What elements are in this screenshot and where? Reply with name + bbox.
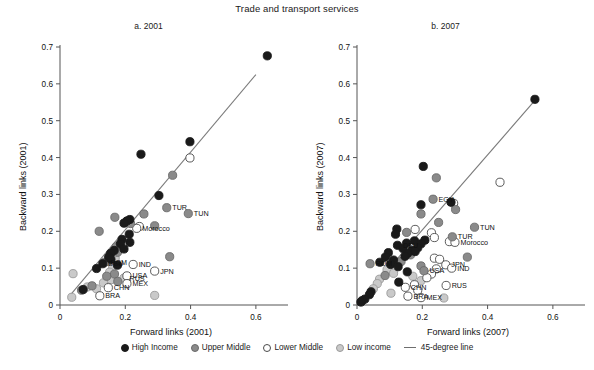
panel-a-y-axis-label: Backward links (2001) <box>18 142 28 231</box>
data-point <box>166 253 174 261</box>
data-point <box>366 260 374 268</box>
data-point <box>186 154 194 162</box>
data-point <box>151 291 159 299</box>
panel-b-xtick-3: 0.6 <box>547 313 559 322</box>
data-point-label: JPN <box>160 267 174 276</box>
data-point <box>531 95 539 103</box>
legend-item-upper-middle[interactable]: Upper Middle <box>191 343 251 352</box>
data-point-label: MEX <box>426 293 442 302</box>
panel-b-ytick-7: 0.7 <box>339 43 351 52</box>
data-point <box>163 204 171 212</box>
legend: High IncomeUpper MiddleLower MiddleLow i… <box>0 343 594 352</box>
legend-item-low-income[interactable]: Low income <box>336 343 391 352</box>
data-point <box>419 162 427 170</box>
panel-a-xtick-1: 0.2 <box>120 313 132 322</box>
data-point <box>448 233 456 241</box>
data-point-label: TUR <box>458 232 473 241</box>
legend-marker-filled-circle <box>336 344 344 352</box>
panel-b-ytick-0: 0 <box>345 301 350 310</box>
legend-label: 45-degree line <box>421 343 473 352</box>
data-point <box>111 213 119 221</box>
data-point <box>387 289 395 297</box>
legend-label: Upper Middle <box>202 343 251 352</box>
data-point <box>394 263 402 271</box>
legend-marker-filled-circle <box>191 344 199 352</box>
data-point <box>411 225 419 233</box>
data-point <box>186 138 194 146</box>
panel-b-xtick-0: 0 <box>355 313 360 322</box>
panel-b-ytick-2: 0.2 <box>339 227 351 236</box>
data-point <box>432 174 440 182</box>
data-point <box>140 210 148 218</box>
data-point <box>151 267 159 275</box>
data-point <box>496 178 504 186</box>
panel-a-ytick-2: 0.2 <box>42 227 54 236</box>
panel-a-ytick-4: 0.4 <box>42 154 54 163</box>
data-point <box>79 285 87 293</box>
panel-b-2007: b. 2007 00.10.20.30.40.50.60.700.20.40.6… <box>297 0 594 340</box>
data-point <box>92 264 100 272</box>
data-point <box>470 223 478 231</box>
panel-a-ytick-0: 0 <box>48 301 53 310</box>
panel-a-xtick-3: 0.6 <box>250 313 262 322</box>
panel-a-x-axis-label: Forward links (2001) <box>60 327 282 337</box>
data-point <box>442 281 450 289</box>
data-point <box>125 230 133 238</box>
data-point-label: ROM <box>376 259 393 268</box>
data-point <box>357 298 365 306</box>
data-point <box>126 238 134 246</box>
data-point <box>430 233 438 241</box>
legend-item-45-degree-line[interactable]: 45-degree line <box>404 343 473 352</box>
data-point <box>435 218 443 226</box>
panel-a-plot: 00.10.20.30.40.50.60.700.20.40.6RUSMoroc… <box>0 0 297 340</box>
legend-item-lower-middle[interactable]: Lower Middle <box>263 343 323 352</box>
data-point-label: TUR <box>172 203 187 212</box>
data-point <box>169 171 177 179</box>
data-point <box>395 278 403 286</box>
data-point <box>381 271 389 279</box>
data-point <box>129 260 137 268</box>
data-point-label: DEU <box>108 259 123 268</box>
data-point <box>404 292 412 300</box>
data-point <box>417 201 425 209</box>
legend-label: Lower Middle <box>274 343 323 352</box>
data-point <box>68 293 76 301</box>
data-point <box>451 205 459 213</box>
legend-marker-open-circle <box>263 344 271 352</box>
panel-b-ytick-3: 0.3 <box>339 190 351 199</box>
legend-line-swatch <box>404 347 416 348</box>
panel-b-x-axis-label: Forward links (2007) <box>357 327 579 337</box>
panel-b-y-axis-label: Backward links (2007) <box>315 142 325 231</box>
panel-b-ytick-6: 0.6 <box>339 80 351 89</box>
data-point <box>403 268 411 276</box>
panel-b-ytick-4: 0.4 <box>339 154 351 163</box>
data-point <box>420 267 428 275</box>
panel-a-ytick-1: 0.1 <box>42 264 54 273</box>
data-point <box>120 219 128 227</box>
data-point <box>96 292 104 300</box>
panel-a-xtick-2: 0.4 <box>185 313 197 322</box>
data-point <box>69 270 77 278</box>
panel-a-ytick-5: 0.5 <box>42 117 54 126</box>
panel-b-plot: 00.10.20.30.40.50.60.700.20.40.6MoroccoJ… <box>297 0 594 340</box>
legend-label: Low income <box>347 343 391 352</box>
data-point-label: IND <box>457 264 469 273</box>
data-point <box>263 52 271 60</box>
panel-a-ytick-6: 0.6 <box>42 80 54 89</box>
data-point-label: BRA <box>105 291 120 300</box>
data-point-label: MEX <box>132 279 148 288</box>
data-point <box>95 227 103 235</box>
legend-label: High Income <box>132 343 178 352</box>
data-point <box>403 228 411 236</box>
legend-item-high-income[interactable]: High Income <box>121 343 178 352</box>
legend-marker-filled-circle <box>121 344 129 352</box>
data-point <box>137 150 145 158</box>
data-point <box>155 191 163 199</box>
panel-b-ytick-5: 0.5 <box>339 117 351 126</box>
data-point-label: TUN <box>194 209 209 218</box>
data-point-label: RUS <box>452 281 467 290</box>
data-point <box>88 282 96 290</box>
panel-b-ytick-1: 0.1 <box>339 264 351 273</box>
panel-b-xtick-2: 0.4 <box>482 313 494 322</box>
panel-a-ytick-7: 0.7 <box>42 43 54 52</box>
